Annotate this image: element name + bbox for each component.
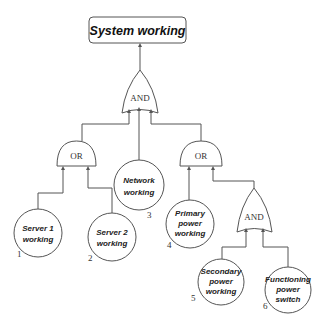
event-label-line1: Network [123,176,155,185]
event-number: 5 [191,293,196,303]
event-label-line1: Secondary [201,267,242,276]
top-event-system-working: System working [89,17,186,43]
event-label-line1: Primary [175,209,205,218]
event-functioning-power-switch: Functioning power switch 6 [263,267,311,313]
event-label-line2: power [177,219,202,228]
gate-and2-label: AND [244,212,264,222]
connector-secondary-to-and [222,230,246,259]
event-number: 4 [167,240,172,250]
and-gate-shape [237,188,272,232]
event-number: 3 [147,210,152,220]
event-label-line3: working [206,287,237,296]
event-number: 6 [263,301,268,311]
gate-or1-label: OR [70,151,83,161]
connector-server2-to-or [88,168,112,213]
connector-switch-to-and [263,230,288,267]
connector-and2-to-or [213,168,254,188]
event-circle [88,213,136,261]
event-label-line2: working [124,188,155,197]
event-label-line3: switch [276,295,301,304]
event-label-line3: working [175,229,206,238]
success-tree-diagram: System working AND OR OR AND Server 1 wo… [0,0,327,325]
event-label-line2: power [208,277,233,286]
gate-or2-label: OR [195,151,208,161]
event-circle [114,160,164,210]
event-server1-working: Server 1 working 1 [14,209,62,259]
connector-server1-to-or [38,168,63,209]
connector-or2-to-and [151,111,201,141]
connector-or1-to-and [82,111,129,141]
event-label-line2: working [23,235,54,244]
event-label-line1: Server 1 [22,224,54,233]
event-network-working: Network working 3 [114,160,164,220]
event-primary-power-working: Primary power working 4 [166,200,214,250]
event-label-line1: Server 2 [96,228,128,237]
event-secondary-power-working: Secondary power working 5 [191,259,244,305]
gate-and-backup-power: AND [237,188,272,232]
and-gate-shape [122,70,158,113]
event-number: 1 [17,249,22,259]
event-server2-working: Server 2 working 2 [88,213,136,263]
event-label-line1: Functioning [265,275,311,284]
gate-top-and-label: AND [130,93,150,103]
event-label-line2: power [275,285,300,294]
event-number: 2 [88,253,93,263]
gate-or-servers: OR [57,141,96,166]
top-event-label: System working [90,24,186,38]
gate-or-power: OR [180,141,222,166]
event-label-line2: working [97,239,128,248]
gate-top-and: AND [122,70,158,113]
